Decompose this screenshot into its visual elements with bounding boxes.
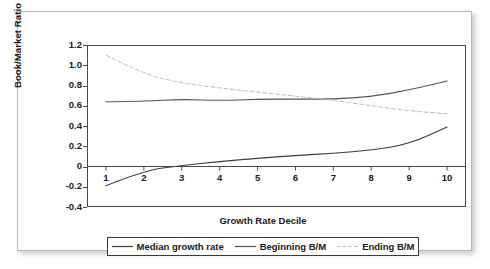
legend-line-icon: [337, 243, 358, 250]
chart-figure: Book/Market Ratio 1.21.00.80.60.40.20-0.…: [0, 0, 490, 269]
y-tick-label: 0.4: [45, 120, 82, 131]
x-tick-label: 2: [132, 172, 156, 183]
legend-label: Ending B/M: [362, 241, 414, 252]
y-tick-label: -0.4: [45, 201, 82, 212]
plot-area: [87, 45, 466, 207]
y-tick-label: 1.2: [45, 39, 82, 50]
x-tick-label: 9: [397, 172, 421, 183]
y-tick-label: 0.6: [45, 99, 82, 110]
plot-lines: [87, 45, 466, 207]
legend-item: Beginning B/M: [235, 241, 327, 252]
y-axis-title: Book/Market Ratio: [12, 0, 23, 106]
x-tick-label: 7: [321, 172, 345, 183]
x-tick-label: 1: [94, 172, 118, 183]
x-tick-label: 8: [359, 172, 383, 183]
x-tick-label: 4: [208, 172, 232, 183]
y-tick-label: 1.0: [45, 59, 82, 70]
series-line: [106, 55, 447, 114]
x-tick-label: 3: [170, 172, 194, 183]
series-line: [106, 81, 447, 102]
chart-legend: Median growth rateBeginning B/MEnding B/…: [107, 237, 419, 256]
x-tick-label: 5: [246, 172, 270, 183]
x-tick-label: 6: [283, 172, 307, 183]
legend-label: Median growth rate: [137, 241, 224, 252]
legend-label: Beginning B/M: [260, 241, 327, 252]
series-line: [106, 127, 447, 186]
legend-line-icon: [112, 243, 133, 250]
y-tick-label: 0: [45, 160, 82, 171]
x-tick-label: 10: [435, 172, 459, 183]
legend-line-icon: [235, 243, 256, 250]
legend-item: Median growth rate: [112, 241, 224, 252]
y-tick-label: 0.2: [45, 140, 82, 151]
legend-item: Ending B/M: [337, 241, 414, 252]
y-tick-mark: [83, 207, 87, 208]
x-axis-title: Growth Rate Decile: [18, 215, 490, 226]
figure-frame: Book/Market Ratio 1.21.00.80.60.40.20-0.…: [17, 11, 472, 251]
y-tick-label: 0.8: [45, 79, 82, 90]
y-tick-label: -0.2: [45, 180, 82, 191]
